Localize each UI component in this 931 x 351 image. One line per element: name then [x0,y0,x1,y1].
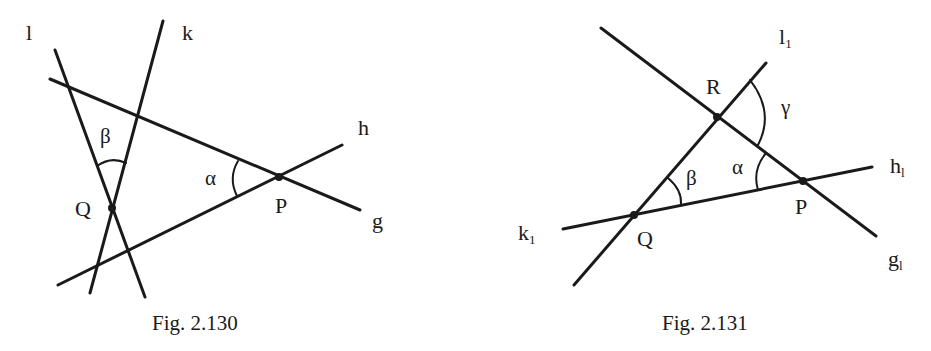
label-angle-gamma: γ [781,97,790,118]
label-angle-alpha: α [205,168,216,189]
label-line-k1-text: k [518,220,529,245]
angle-gamma-arc [750,80,765,145]
label-point-Q: Q [75,198,91,220]
label-point-R: R [706,76,721,98]
angle-alpha-arc [233,161,238,196]
label-line-g1-text: g [888,246,899,271]
label-line-k: k [182,22,193,44]
point-R-2 [713,113,721,121]
point-P [275,173,283,181]
label-line-h1-subscript: l [901,165,905,180]
angle-beta-arc-2 [668,178,681,204]
point-P-2 [799,177,807,185]
label-line-l1: l1 [779,26,792,50]
label-line-h1-text: h [890,153,901,178]
label-line-g1: gl [888,248,903,272]
label-angle-beta-2: β [686,168,697,189]
angle-beta-arc [97,160,126,166]
figure-caption-1: Fig. 2.130 [152,313,238,334]
label-line-l1-subscript: 1 [785,36,792,51]
diagram-canvas [0,0,931,351]
label-line-h1: hl [890,155,905,179]
label-angle-beta: β [100,126,111,147]
point-Q [108,204,116,212]
label-line-g1-subscript: l [899,258,903,273]
label-point-P-2: P [795,196,807,218]
label-line-h: h [358,117,369,139]
line-g [50,79,360,210]
label-line-l: l [26,22,32,44]
label-line-k1-subscript: 1 [529,232,536,247]
label-line-g: g [372,210,383,232]
point-Q-2 [630,211,638,219]
label-point-Q-2: Q [637,228,653,250]
line-h [58,145,342,285]
label-angle-alpha-2: α [732,157,743,178]
figure-caption-2: Fig. 2.131 [662,313,748,334]
angle-alpha-arc-2 [756,153,766,190]
label-point-P: P [275,195,287,217]
label-line-k1: k1 [518,222,536,246]
